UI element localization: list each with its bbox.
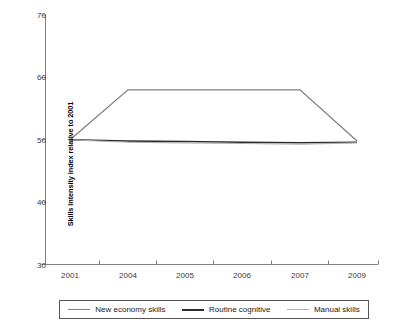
series-lines [70, 90, 357, 144]
legend-label-new-economy-skills: New economy skills [95, 305, 165, 314]
series-line-new-economy-skills [70, 90, 357, 141]
chart-legend: New economy skills Routine cognitive Man… [59, 300, 369, 319]
legend-swatch-routine-cognitive [182, 309, 204, 311]
legend-swatch-new-economy-skills [68, 309, 90, 310]
legend-item-new-economy-skills: New economy skills [68, 305, 165, 314]
y-tick-label-30: 30 [24, 261, 46, 270]
legend-swatch-manual-skills [287, 309, 309, 310]
x-tick-label-2006: 2006 [222, 271, 262, 280]
y-axis-title: Skills intensity index relative to 2001 [66, 101, 75, 226]
y-tick-label-70: 70 [24, 11, 46, 20]
y-tick-label-40: 40 [24, 198, 46, 207]
legend-label-manual-skills: Manual skills [314, 305, 360, 314]
x-tick-label-2009: 2009 [337, 271, 377, 280]
x-tick-label-2001: 2001 [50, 271, 90, 280]
x-tick-label-2004: 2004 [108, 271, 148, 280]
legend-item-manual-skills: Manual skills [287, 305, 360, 314]
y-tick-label-60: 60 [24, 73, 46, 82]
chart-figure: Skills intensity index relative to 2001 … [0, 0, 393, 327]
legend-item-routine-cognitive: Routine cognitive [182, 305, 270, 314]
x-tick-marks [100, 261, 379, 265]
x-tick-label-2007: 2007 [280, 271, 320, 280]
x-tick-label-2005: 2005 [165, 271, 205, 280]
y-tick-label-50: 50 [24, 136, 46, 145]
legend-label-routine-cognitive: Routine cognitive [209, 305, 270, 314]
